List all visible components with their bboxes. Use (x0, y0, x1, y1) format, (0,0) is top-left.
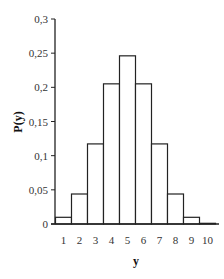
y-axis-title: P(y) (11, 111, 25, 132)
x-tick-label: 3 (93, 234, 99, 246)
y-tick-label: 0,05 (29, 184, 49, 196)
y-tick-label: 0,1 (34, 150, 48, 162)
bar-y-2 (72, 194, 88, 224)
x-tick-label: 2 (77, 234, 83, 246)
y-tick-label: 0,15 (29, 116, 49, 128)
x-tick-label: 8 (173, 234, 179, 246)
x-axis: 12345678910 (51, 224, 219, 246)
x-tick-label: 4 (109, 234, 115, 246)
y-tick-label: 0,25 (29, 47, 49, 59)
x-tick-label: 6 (141, 234, 147, 246)
bar-y-1 (56, 217, 72, 224)
x-tick-label: 9 (189, 234, 195, 246)
bars-group (56, 56, 216, 224)
bar-y-4 (104, 84, 120, 224)
bar-y-9 (184, 217, 200, 224)
bar-y-5 (120, 56, 136, 224)
y-tick-label: 0,3 (34, 13, 48, 25)
x-tick-label: 1 (61, 234, 67, 246)
x-tick-label: 10 (202, 234, 214, 246)
y-tick-label: 0,2 (34, 81, 48, 93)
x-tick-label: 7 (157, 234, 163, 246)
bar-y-6 (136, 84, 152, 224)
y-axis: 00,050,10,150,20,250,3 (29, 13, 55, 230)
probability-histogram: 00,050,10,150,20,250,3 12345678910 P(y) … (0, 0, 224, 279)
bar-y-7 (152, 144, 168, 224)
y-tick-label: 0 (43, 218, 49, 230)
bar-y-8 (168, 194, 184, 224)
x-axis-title: y (133, 254, 139, 268)
x-tick-label: 5 (125, 234, 131, 246)
bar-y-3 (88, 144, 104, 224)
